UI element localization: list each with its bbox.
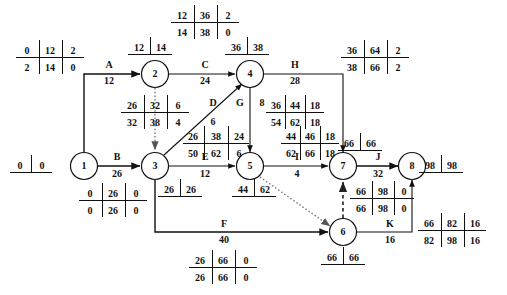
activity-table-J: 66 98 0 66 98 0	[350, 181, 414, 215]
activity-J-es: 66	[356, 186, 366, 197]
activity-C-es: 12	[177, 10, 187, 21]
activity-table-G: 36 44 18 54 62 18	[266, 95, 324, 129]
activity-K-lf: 98	[447, 235, 457, 246]
activity-D-lf: 62	[211, 148, 221, 159]
activity-table-D: 26 38 24 50 62 6	[183, 126, 249, 160]
activity-G-es: 36	[271, 100, 281, 111]
activity-table-K: 66 82 16 82 98 16	[418, 213, 486, 247]
activity-A-es: 0	[25, 45, 30, 56]
dummy-2-3-ls: 32	[127, 117, 137, 128]
dummy-2-3-ff: 4	[176, 117, 181, 128]
activity-I-es: 44	[286, 131, 296, 142]
edge-dummy-5-6	[260, 177, 330, 226]
activity-F-tf: 0	[244, 255, 249, 266]
activity-A-tf: 2	[71, 45, 76, 56]
node-1[interactable]: 1	[71, 153, 98, 180]
activity-B-ff: 0	[134, 205, 139, 216]
node-4-times-box: 36 38	[225, 37, 269, 54]
activity-F-ff: 0	[244, 272, 249, 283]
node-3-times-box: 26 26	[158, 179, 202, 196]
activity-C-ef: 36	[200, 10, 210, 21]
activity-H-letter: H	[291, 59, 299, 70]
node-2-times-box: 12 14	[128, 37, 172, 54]
activity-H-ls: 38	[347, 62, 357, 73]
activity-D-ef: 38	[211, 131, 221, 142]
node-3-latest: 26	[186, 184, 196, 195]
dummy-2-3-tf: 6	[176, 100, 181, 111]
activity-H-es: 36	[347, 45, 357, 56]
activity-K-tf: 16	[470, 218, 480, 229]
activity-C-duration: 24	[200, 75, 210, 86]
activity-G-tf: 18	[310, 100, 320, 111]
activity-table-I: 44 46 18 62 66 18	[281, 126, 339, 160]
activity-D-ls: 50	[188, 148, 198, 159]
activity-G-ls: 54	[271, 117, 281, 128]
activity-J-ff: 0	[402, 203, 407, 214]
node-6-times-box: 66 66	[321, 247, 365, 264]
activity-I-tf: 18	[325, 131, 335, 142]
activity-I-lf: 66	[305, 148, 315, 159]
activity-J-duration: 32	[373, 168, 383, 179]
activity-J-lf: 98	[378, 203, 388, 214]
activity-label-H: H 28	[290, 59, 300, 86]
node-3[interactable]: 3	[142, 153, 169, 180]
node-8[interactable]: 8	[399, 153, 426, 180]
activity-K-ef: 82	[447, 218, 457, 229]
activity-A-duration: 12	[104, 75, 114, 86]
node-8-times-box: 98 98	[419, 155, 463, 172]
activity-J-tf: 0	[402, 186, 407, 197]
activity-F-letter: F	[221, 218, 227, 229]
node-8-latest: 98	[447, 160, 457, 171]
activity-I-ff: 18	[325, 148, 335, 159]
node-4-earliest: 36	[231, 42, 241, 53]
activity-table-F: 26 66 0 26 66 0	[189, 250, 257, 284]
activity-I-ef: 46	[305, 131, 315, 142]
activity-table-B: 0 26 0 0 26 0	[79, 183, 147, 217]
activity-C-ls: 14	[177, 27, 187, 38]
node-3-label: 3	[153, 160, 158, 171]
activity-table-C: 12 36 2 14 38 0	[171, 5, 239, 39]
node-1-earliest: 0	[18, 160, 23, 171]
activity-B-tf: 0	[134, 188, 139, 199]
node-4-latest: 38	[253, 42, 263, 53]
activity-C-letter: C	[201, 59, 208, 70]
activity-D-duration: 6	[211, 116, 216, 127]
activity-B-ls: 0	[88, 205, 93, 216]
activity-G-ff: 18	[310, 117, 320, 128]
activity-K-duration: 16	[385, 234, 395, 245]
activity-C-tf: 2	[226, 10, 231, 21]
node-1-times-box: 0 0	[10, 155, 52, 172]
node-6[interactable]: 6	[330, 219, 357, 246]
activity-table-A: 0 12 2 2 14 0	[16, 40, 84, 74]
activity-A-ef: 12	[45, 45, 55, 56]
activity-F-es: 26	[195, 255, 205, 266]
node-1-label: 1	[82, 160, 87, 171]
activity-J-ef: 98	[378, 186, 388, 197]
activity-K-es: 66	[424, 218, 434, 229]
node-5-latest: 62	[260, 184, 270, 195]
activity-B-ef: 26	[108, 188, 118, 199]
node-2[interactable]: 2	[142, 61, 169, 88]
activity-E-letter: E	[202, 151, 209, 162]
activity-G-letter: G	[236, 97, 244, 108]
activity-J-ls: 66	[356, 203, 366, 214]
activity-label-J: J 32	[373, 151, 383, 179]
network-diagram-canvas: 1 2 3 4 5 6 7 8 A	[0, 0, 507, 295]
activity-K-ff: 16	[470, 235, 480, 246]
activity-D-es: 26	[188, 131, 198, 142]
node-6-earliest: 66	[327, 252, 337, 263]
node-4[interactable]: 4	[237, 61, 264, 88]
node-1-latest: 0	[40, 160, 45, 171]
activity-H-duration: 28	[290, 75, 300, 86]
node-7-label: 7	[341, 160, 346, 171]
activity-D-letter: D	[209, 97, 216, 108]
activity-A-letter: A	[105, 59, 113, 70]
activity-G-duration: 8	[260, 97, 265, 108]
network-diagram-svg: 1 2 3 4 5 6 7 8 A	[0, 0, 507, 295]
activity-C-ff: 0	[226, 27, 231, 38]
activity-label-C: C 24	[200, 59, 210, 86]
activity-H-lf: 66	[370, 62, 380, 73]
node-6-label: 6	[341, 226, 346, 237]
activity-label-A: A 12	[104, 59, 114, 86]
activity-B-lf: 26	[108, 205, 118, 216]
